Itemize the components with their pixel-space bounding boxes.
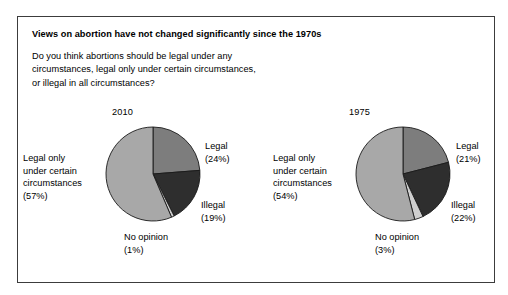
chart-year-label: 2010 (3, 107, 242, 117)
pie-chart-2010: 2010 Legal only under certain circumstan… (18, 105, 257, 280)
chart-year-label: 1975 (240, 107, 479, 117)
slice-label-legal-only: Legal only under certain circumstances (… (23, 152, 107, 202)
pie-svg (105, 126, 201, 222)
slice-label-illegal: Illegal (22%) (451, 199, 501, 224)
pie-slice-legal (153, 127, 200, 174)
slice-label-no-opinion: No opinion (3%) (375, 231, 455, 256)
pie-graphic (355, 126, 451, 222)
slice-label-legal: Legal (21%) (456, 140, 502, 165)
pie-slices (356, 127, 450, 221)
pie-chart-1975: 1975 Legal only under certain circumstan… (257, 105, 496, 280)
slice-label-legal: Legal (24%) (205, 140, 257, 165)
slice-label-legal-only: Legal only under certain circumstances (… (273, 152, 357, 202)
figure-panel: Views on abortion have not changed signi… (17, 16, 495, 283)
page-title: Views on abortion have not changed signi… (32, 29, 321, 39)
slice-label-no-opinion: No opinion (1%) (124, 231, 204, 256)
pie-slices (106, 127, 200, 221)
pie-graphic (105, 126, 201, 222)
slice-label-illegal: Illegal (19%) (201, 199, 257, 224)
survey-question-text: Do you think abortions should be legal u… (32, 50, 262, 90)
pie-svg (355, 126, 451, 222)
